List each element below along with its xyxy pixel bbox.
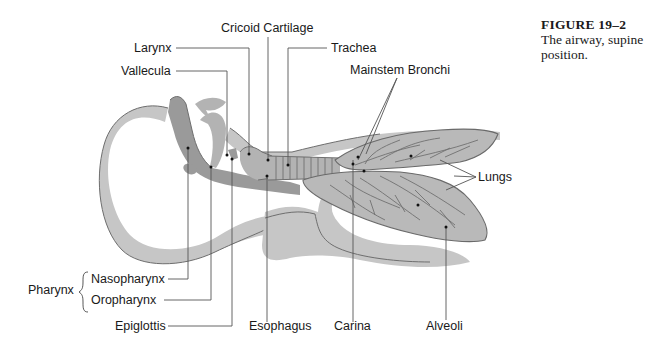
label-esophagus: Esophagus xyxy=(249,319,312,333)
label-trachea: Trachea xyxy=(331,41,376,55)
label-vallecula: Vallecula xyxy=(121,64,171,78)
label-mainstem-bronchi: Mainstem Bronchi xyxy=(350,63,450,77)
label-lungs: Lungs xyxy=(478,170,512,184)
label-cricoid-cartilage: Cricoid Cartilage xyxy=(221,21,313,35)
label-carina: Carina xyxy=(334,319,371,333)
pharynx-brace xyxy=(79,272,88,312)
figure-number: FIGURE 19–2 xyxy=(541,17,658,32)
figure-caption-text: The airway, supine position. xyxy=(541,32,658,62)
figure-caption: FIGURE 19–2 The airway, supine position. xyxy=(541,17,658,62)
label-larynx: Larynx xyxy=(134,41,172,55)
label-nasopharynx: Nasopharynx xyxy=(91,272,165,286)
label-oropharynx: Oropharynx xyxy=(91,293,157,307)
label-pharynx: Pharynx xyxy=(28,283,75,297)
label-epiglottis: Epiglottis xyxy=(115,319,166,333)
label-alveoli: Alveoli xyxy=(426,319,463,333)
